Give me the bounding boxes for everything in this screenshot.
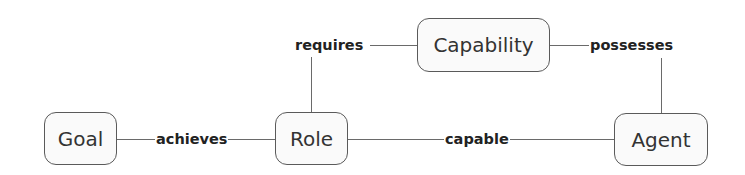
edge-label-achieves: achieves xyxy=(155,130,228,148)
edge-requires-capability xyxy=(370,45,417,46)
node-role-label: Role xyxy=(290,127,333,151)
edge-label-capable: capable xyxy=(444,130,510,148)
node-agent-label: Agent xyxy=(631,128,690,152)
edge-label-requires: requires xyxy=(294,36,364,54)
node-agent[interactable]: Agent xyxy=(614,113,708,166)
edge-capability-possesses xyxy=(550,45,590,46)
edge-label-possesses: possesses xyxy=(589,36,674,54)
edge-role-requires-vertical xyxy=(311,57,312,112)
edge-possesses-agent-vertical xyxy=(661,58,662,113)
node-capability[interactable]: Capability xyxy=(417,18,550,72)
node-goal[interactable]: Goal xyxy=(44,112,117,165)
node-goal-label: Goal xyxy=(58,127,104,151)
node-capability-label: Capability xyxy=(433,33,533,57)
node-role[interactable]: Role xyxy=(275,112,348,165)
